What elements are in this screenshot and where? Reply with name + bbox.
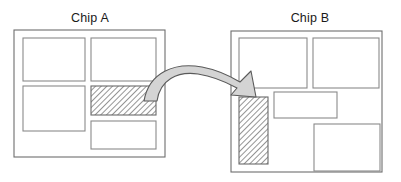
chip-a-block-mid-left[interactable] <box>23 86 85 131</box>
chip-b-block-bottom-right[interactable] <box>314 124 380 171</box>
chip-b-block-mid-left-highlighted[interactable] <box>239 97 268 164</box>
chip-a-block-top-right[interactable] <box>91 38 156 81</box>
chip-b-block-top-right[interactable] <box>313 38 379 88</box>
chip-a-group[interactable]: Chip A <box>14 11 165 157</box>
chip-a-block-bottom-right[interactable] <box>91 121 156 149</box>
diagram-canvas: Chip A Chip B <box>0 0 401 182</box>
chip-a-block-top-left[interactable] <box>23 38 85 81</box>
chip-transfer-diagram: Chip A Chip B <box>0 0 401 182</box>
chip-a-title: Chip A <box>71 11 109 25</box>
chip-b-block-mid-right[interactable] <box>274 92 337 118</box>
chip-b-title: Chip B <box>291 11 330 25</box>
